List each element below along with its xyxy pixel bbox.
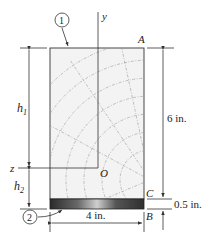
origin-label: O xyxy=(100,167,108,179)
point-c-label: C xyxy=(146,187,154,199)
point-b-label: B xyxy=(146,210,153,222)
composite-beam-diagram: y z O A C B 1 2 h1 h2 6 in. 0.5 in. xyxy=(0,0,216,234)
width-label: 4 in. xyxy=(86,209,106,221)
total-height-label: 6 in. xyxy=(167,112,187,124)
material-1-callout: 1 xyxy=(55,13,69,46)
material-2-callout: 2 xyxy=(23,210,62,224)
point-a-label: A xyxy=(137,33,145,45)
left-dimensions: h1 h2 xyxy=(14,48,47,209)
material-2-number: 2 xyxy=(27,212,32,223)
material-1-number: 1 xyxy=(59,15,64,26)
y-axis-label: y xyxy=(101,10,107,22)
bottom-dimension: 4 in. xyxy=(50,209,144,232)
h1-label: h1 xyxy=(17,101,27,117)
z-axis-label: z xyxy=(9,162,15,174)
steel-plate xyxy=(50,199,144,209)
plate-thickness-label: 0.5 in. xyxy=(174,198,202,210)
h2-label: h2 xyxy=(14,179,24,195)
right-dimensions: 6 in. 0.5 in. xyxy=(147,48,202,230)
